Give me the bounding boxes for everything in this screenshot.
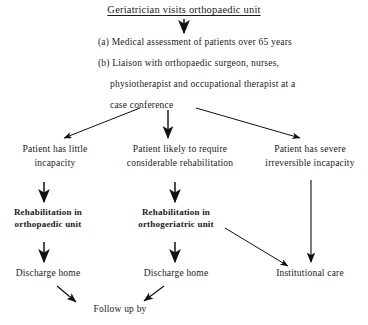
treatment-orthopaedic-unit: Rehabilitation in orthopaedic unit xyxy=(0,207,96,230)
diagram-title: Geriatrician visits orthopaedic unit xyxy=(0,2,368,17)
arrow-discharge-center-to-followup xyxy=(144,286,164,301)
outcome-discharge-home-center: Discharge home xyxy=(127,267,225,281)
flowchart-diagram: Geriatrician visits orthopaedic unit (a)… xyxy=(0,0,368,325)
step-medical-assessment: (a) Medical assessment of patients over … xyxy=(98,36,292,50)
branch-severe-irreversible-incapacity: Patient has severe irreversible incapaci… xyxy=(252,143,368,171)
step-liaison: (b) Liaison with orthopaedic surgeon, nu… xyxy=(98,57,279,71)
footer-follow-up: Follow up by xyxy=(60,303,180,317)
outcome-institutional-care: Institutional care xyxy=(252,267,368,281)
branch-considerable-rehabilitation: Patient likely to require considerable r… xyxy=(110,143,250,171)
step-case-conference: case conference xyxy=(110,99,173,113)
arrow-conference-to-branch-right xyxy=(196,108,300,138)
step-liaison-continued: physiotherapist and occupational therapi… xyxy=(110,78,295,92)
branch-little-incapacity: Patient has little incapacity xyxy=(0,143,110,171)
arrow-discharge-left-to-followup xyxy=(57,286,76,302)
outcome-discharge-home-left: Discharge home xyxy=(0,267,96,281)
arrow-treatment-center-to-institutional-care xyxy=(225,228,288,266)
treatment-orthogeriatric-unit: Rehabilitation in orthogeriatric unit xyxy=(127,207,225,230)
